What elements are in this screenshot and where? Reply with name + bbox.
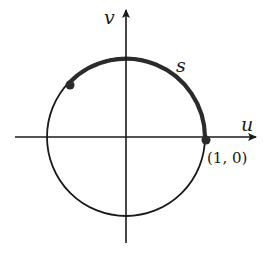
endpoint-dot [66, 81, 75, 90]
v-axis-label: v [104, 6, 115, 28]
arc-label-s: s [176, 54, 186, 76]
point-label: (1, 0) [207, 149, 247, 167]
unit-circle-diagram: v s u (1, 0) [0, 0, 271, 257]
u-axis-label: u [241, 113, 253, 135]
point-1-0-dot [202, 136, 211, 145]
